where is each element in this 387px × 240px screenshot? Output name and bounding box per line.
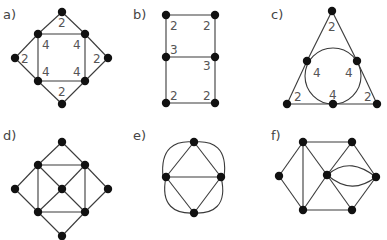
panel-label: a) xyxy=(3,7,16,22)
graph-vertex xyxy=(58,185,66,193)
graph-edge xyxy=(38,142,62,165)
graph-diagram-figure: 24422442a)223322b)244242c)d)e)f) xyxy=(0,0,387,240)
graph-vertex xyxy=(11,54,19,62)
graph-edge xyxy=(352,142,376,177)
vertex-degree-label: 4 xyxy=(42,38,50,52)
graph-vertex xyxy=(211,99,219,107)
graph-vertex xyxy=(81,30,89,38)
graph-curved-edge xyxy=(327,166,376,177)
graph-vertex xyxy=(217,173,225,181)
graph-edge xyxy=(303,142,327,175)
vertex-degree-label: 4 xyxy=(73,65,81,79)
graph-edge xyxy=(332,11,357,61)
graph-edge xyxy=(85,189,108,212)
vertex-degree-label: 4 xyxy=(313,66,321,80)
graph-edge xyxy=(279,176,303,210)
vertex-degree-label: 4 xyxy=(345,66,353,80)
graph-vertex xyxy=(211,11,219,19)
graph-edge xyxy=(327,175,352,210)
graph-edge xyxy=(352,177,376,210)
vertex-degree-label: 2 xyxy=(294,90,302,104)
graph-panel-f: f) xyxy=(271,128,380,214)
graph-vertex xyxy=(34,208,42,216)
graph-vertex xyxy=(323,171,331,179)
graph-vertex xyxy=(190,209,198,217)
graph-vertex xyxy=(34,161,42,169)
graph-vertex xyxy=(162,11,170,19)
graph-edge xyxy=(303,175,327,210)
graph-edge xyxy=(279,142,303,176)
graph-edge xyxy=(62,142,85,165)
panel-label: f) xyxy=(271,128,281,143)
graph-panel-a: 24422442a) xyxy=(3,7,112,108)
graph-vertex xyxy=(58,232,66,240)
vertex-degree-label: 2 xyxy=(170,89,178,103)
graph-vertex xyxy=(190,138,198,146)
graph-vertex xyxy=(162,53,170,61)
vertex-degree-label: 2 xyxy=(203,19,211,33)
graph-vertex xyxy=(211,53,219,61)
graph-curved-edge xyxy=(194,142,225,177)
graph-edge xyxy=(62,189,85,212)
graph-vertex xyxy=(348,206,356,214)
vertex-degree-label: 2 xyxy=(203,89,211,103)
graph-vertex xyxy=(34,30,42,38)
graph-vertex xyxy=(81,208,89,216)
graph-panel-e: e) xyxy=(133,128,225,217)
panel-label: b) xyxy=(133,7,146,22)
graph-edge xyxy=(38,212,62,236)
graph-edge xyxy=(38,189,62,212)
panel-label: c) xyxy=(271,7,283,22)
graph-vertex xyxy=(58,138,66,146)
vertex-degree-label: 4 xyxy=(42,65,50,79)
graph-vertex xyxy=(58,8,66,16)
graph-vertex xyxy=(81,77,89,85)
graph-vertex xyxy=(372,173,380,181)
graph-curved-edge xyxy=(163,142,194,177)
graph-panel-c: 244242c) xyxy=(271,7,381,108)
graph-vertex xyxy=(104,185,112,193)
graph-edge xyxy=(62,212,85,236)
graph-vertex xyxy=(81,161,89,169)
graph-vertex xyxy=(299,206,307,214)
graph-vertex xyxy=(58,100,66,108)
graph-vertex xyxy=(299,138,307,146)
graph-edge xyxy=(166,177,194,213)
graph-vertex xyxy=(34,77,42,85)
vertex-degree-label: 2 xyxy=(58,16,66,30)
graph-edge xyxy=(62,165,85,189)
panel-label: e) xyxy=(133,128,146,143)
vertex-degree-label: 2 xyxy=(170,19,178,33)
vertex-degree-label: 2 xyxy=(58,85,66,99)
vertex-degree-label: 2 xyxy=(21,52,29,66)
graph-edge xyxy=(15,165,38,189)
graph-vertex xyxy=(162,99,170,107)
vertex-degree-label: 3 xyxy=(203,59,211,73)
graph-panel-d: d) xyxy=(3,128,112,240)
graph-edge xyxy=(15,189,38,212)
graph-edge xyxy=(85,165,108,189)
vertex-degree-label: 2 xyxy=(364,90,372,104)
graph-edge xyxy=(194,177,221,213)
graph-vertex xyxy=(11,185,19,193)
graph-edge xyxy=(327,142,352,175)
graph-vertex xyxy=(353,57,361,65)
graph-vertex xyxy=(373,100,381,108)
graph-vertex xyxy=(162,173,170,181)
vertex-degree-label: 2 xyxy=(93,52,101,66)
vertex-degree-label: 4 xyxy=(329,88,337,102)
vertex-degree-label: 3 xyxy=(170,43,178,57)
graph-edge xyxy=(307,11,332,61)
graph-vertex xyxy=(104,54,112,62)
panel-label: d) xyxy=(3,128,16,143)
graph-edge xyxy=(38,165,62,189)
graph-vertex xyxy=(275,172,283,180)
graph-vertex xyxy=(283,100,291,108)
vertex-degree-label: 4 xyxy=(73,38,81,52)
graph-vertex xyxy=(348,138,356,146)
graph-vertex xyxy=(303,57,311,65)
graph-panel-b: 223322b) xyxy=(133,7,219,107)
graph-vertex xyxy=(328,7,336,15)
vertex-degree-label: 2 xyxy=(328,20,336,34)
